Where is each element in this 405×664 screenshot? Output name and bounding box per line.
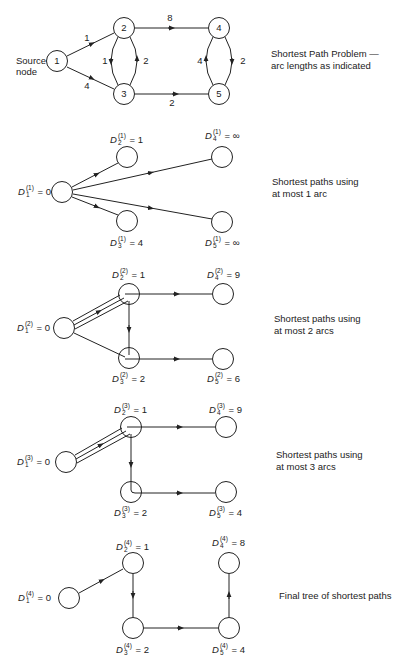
value: 0 xyxy=(45,322,50,333)
sup-sub: (2)2 xyxy=(120,267,128,281)
value: 0 xyxy=(46,592,51,603)
source-node-label: Source node xyxy=(16,55,46,77)
arc-2-3 xyxy=(111,37,118,85)
sup-sub: (1)2 xyxy=(118,132,126,146)
value: 1 xyxy=(138,134,143,145)
sup-sub: (1)1 xyxy=(26,184,34,198)
sup-sub: (1)3 xyxy=(118,235,126,249)
arc-length-3-5: 2 xyxy=(166,97,178,108)
d-symbol: D xyxy=(18,186,25,197)
sup-sub: (3)1 xyxy=(25,454,33,468)
arc-4-5 xyxy=(225,37,232,85)
arc-length-2-3: 1 xyxy=(99,55,111,66)
value: 1 xyxy=(140,269,145,280)
label-d1-final: D(4)1 = 0 xyxy=(18,591,51,605)
d-symbol: D xyxy=(112,373,119,384)
iteration-2-graph xyxy=(54,284,234,370)
d-symbol: D xyxy=(205,130,212,141)
iteration-1-graph xyxy=(52,147,233,233)
d-symbol: D xyxy=(110,237,117,248)
label-d5-iter3: D(3)5 = 4 xyxy=(209,506,242,520)
d-symbol: D xyxy=(112,269,119,280)
label-d5-final: D(4)5 = 4 xyxy=(212,643,245,657)
label-d3-iter2: D(2)3 = 2 xyxy=(112,372,145,386)
caption-iter3: Shortest paths using at most 3 arcs xyxy=(276,449,363,473)
value: 2 xyxy=(142,507,147,518)
d-symbol: D xyxy=(209,507,216,518)
sup-sub: (4)5 xyxy=(220,642,228,656)
value: 2 xyxy=(144,644,149,655)
label-d2-iter3: D(3)2 = 1 xyxy=(114,403,147,417)
value: 1 xyxy=(142,404,147,415)
value: 2 xyxy=(140,373,145,384)
value: 8 xyxy=(240,537,245,548)
sup-sub: (3)5 xyxy=(217,505,225,519)
value: ∞ xyxy=(233,130,240,141)
node-2-label: 2 xyxy=(118,22,130,33)
arc-length-2-4: 8 xyxy=(164,12,176,23)
d-symbol: D xyxy=(207,373,214,384)
d-symbol: D xyxy=(17,456,24,467)
label-d5-iter2: D(2)5 = 6 xyxy=(207,372,240,386)
value: 4 xyxy=(237,507,242,518)
label-d2-iter1: D(1)2 = 1 xyxy=(110,133,143,147)
sup-sub: (3)3 xyxy=(122,505,130,519)
d-symbol: D xyxy=(114,507,121,518)
label-d2-iter2: D(2)2 = 1 xyxy=(112,268,145,282)
node-1-label: 1 xyxy=(51,55,63,66)
label-d4-iter2: D(2)4 = 9 xyxy=(207,268,240,282)
caption-final: Final tree of shortest paths xyxy=(279,590,391,602)
iteration-3-graph xyxy=(56,417,237,503)
label-d1-iter1: D(1)1 = 0 xyxy=(18,185,51,199)
d-symbol: D xyxy=(114,404,121,415)
label-d4-iter3: D(3)4 = 9 xyxy=(209,403,242,417)
arc-length-4-5: 2 xyxy=(237,55,249,66)
arc-length-1-2: 1 xyxy=(81,32,93,43)
value: 0 xyxy=(46,186,51,197)
label-d3-final: D(4)3 = 2 xyxy=(116,643,149,657)
arc-3-2 xyxy=(130,37,137,85)
value: 6 xyxy=(235,373,240,384)
d-symbol: D xyxy=(209,404,216,415)
sup-sub: (2)4 xyxy=(215,267,223,281)
sup-sub: (2)1 xyxy=(25,320,33,334)
sup-sub: (3)4 xyxy=(217,402,225,416)
caption-iter2: Shortest paths using at most 2 arcs xyxy=(274,313,361,337)
d-symbol: D xyxy=(116,541,123,552)
value: 1 xyxy=(144,541,149,552)
sup-sub: (4)1 xyxy=(26,590,34,604)
final-tree-graph xyxy=(59,553,240,639)
caption-problem: Shortest Path Problem — arc lengths as i… xyxy=(271,48,379,72)
label-d1-iter3: D(3)1 = 0 xyxy=(17,455,50,469)
value: 4 xyxy=(240,644,245,655)
sup-sub: (3)2 xyxy=(122,402,130,416)
label-d4-iter1: D(1)4 = ∞ xyxy=(205,129,239,143)
d-symbol: D xyxy=(212,537,219,548)
sup-sub: (1)4 xyxy=(213,128,221,142)
d-symbol: D xyxy=(207,269,214,280)
d-symbol: D xyxy=(212,644,219,655)
arc-5-4 xyxy=(206,37,213,85)
d-symbol: D xyxy=(110,134,117,145)
arc-length-5-4: 4 xyxy=(194,55,206,66)
value: 4 xyxy=(138,237,143,248)
value: ∞ xyxy=(233,237,240,248)
sup-sub: (4)3 xyxy=(124,642,132,656)
value: 9 xyxy=(237,404,242,415)
sup-sub: (4)2 xyxy=(124,539,132,553)
label-d4-final: D(4)4 = 8 xyxy=(212,536,245,550)
d-symbol: D xyxy=(205,237,212,248)
label-d1-iter2: D(2)1 = 0 xyxy=(17,321,50,335)
node-4-label: 4 xyxy=(213,22,225,33)
node-5-label: 5 xyxy=(213,88,225,99)
label-d5-iter1: D(1)5 = ∞ xyxy=(205,236,239,250)
sup-sub: (2)3 xyxy=(120,371,128,385)
arc-length-3-2: 2 xyxy=(140,55,152,66)
sup-sub: (1)5 xyxy=(213,235,221,249)
sup-sub: (2)5 xyxy=(215,371,223,385)
label-d3-iter1: D(1)3 = 4 xyxy=(110,236,143,250)
sup-sub: (4)4 xyxy=(220,535,228,549)
d-symbol: D xyxy=(18,592,25,603)
label-d3-iter3: D(3)3 = 2 xyxy=(114,506,147,520)
value: 9 xyxy=(235,269,240,280)
